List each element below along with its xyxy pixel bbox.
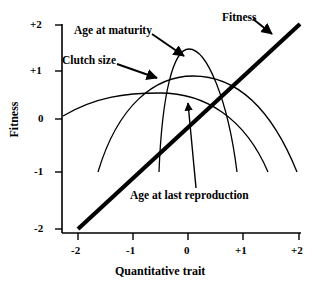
label-fitness-curve: Fitness: [222, 12, 257, 24]
y-axis-title: Fitness: [7, 90, 22, 150]
arrow-clutch-size: [117, 64, 157, 78]
x-tick-label-m1: -1: [126, 245, 135, 256]
y-tick-label-m2: -2: [34, 223, 43, 234]
y-tick-label-p2: +2: [30, 19, 42, 30]
label-age-at-last-reproduction: Age at last reproduction: [130, 190, 249, 202]
x-axis-title: Quantitative trait: [115, 265, 205, 277]
x-axis-ticks: [78, 233, 299, 240]
x-tick-label-p1: +1: [235, 245, 247, 256]
curve-age-at-last-reproduction: [63, 93, 268, 172]
arrow-age-at-last-reproduction: [188, 103, 196, 188]
curve-age-at-maturity: [159, 49, 237, 172]
x-tick-label-0: 0: [184, 245, 190, 256]
arrow-age-at-maturity: [152, 34, 184, 56]
x-tick-label-p2: +2: [291, 245, 303, 256]
curve-clutch-size: [98, 76, 297, 172]
y-tick-label-p1: +1: [30, 65, 42, 76]
y-tick-label-0: 0: [38, 113, 44, 124]
y-axis-ticks: [55, 25, 62, 229]
x-tick-label-m2: -2: [71, 245, 80, 256]
label-age-at-maturity: Age at maturity: [74, 25, 152, 37]
annotation-arrows: [117, 19, 272, 188]
y-tick-label-m1: -1: [34, 166, 43, 177]
chart-canvas: [0, 0, 315, 287]
label-clutch-size: Clutch size: [62, 55, 116, 67]
